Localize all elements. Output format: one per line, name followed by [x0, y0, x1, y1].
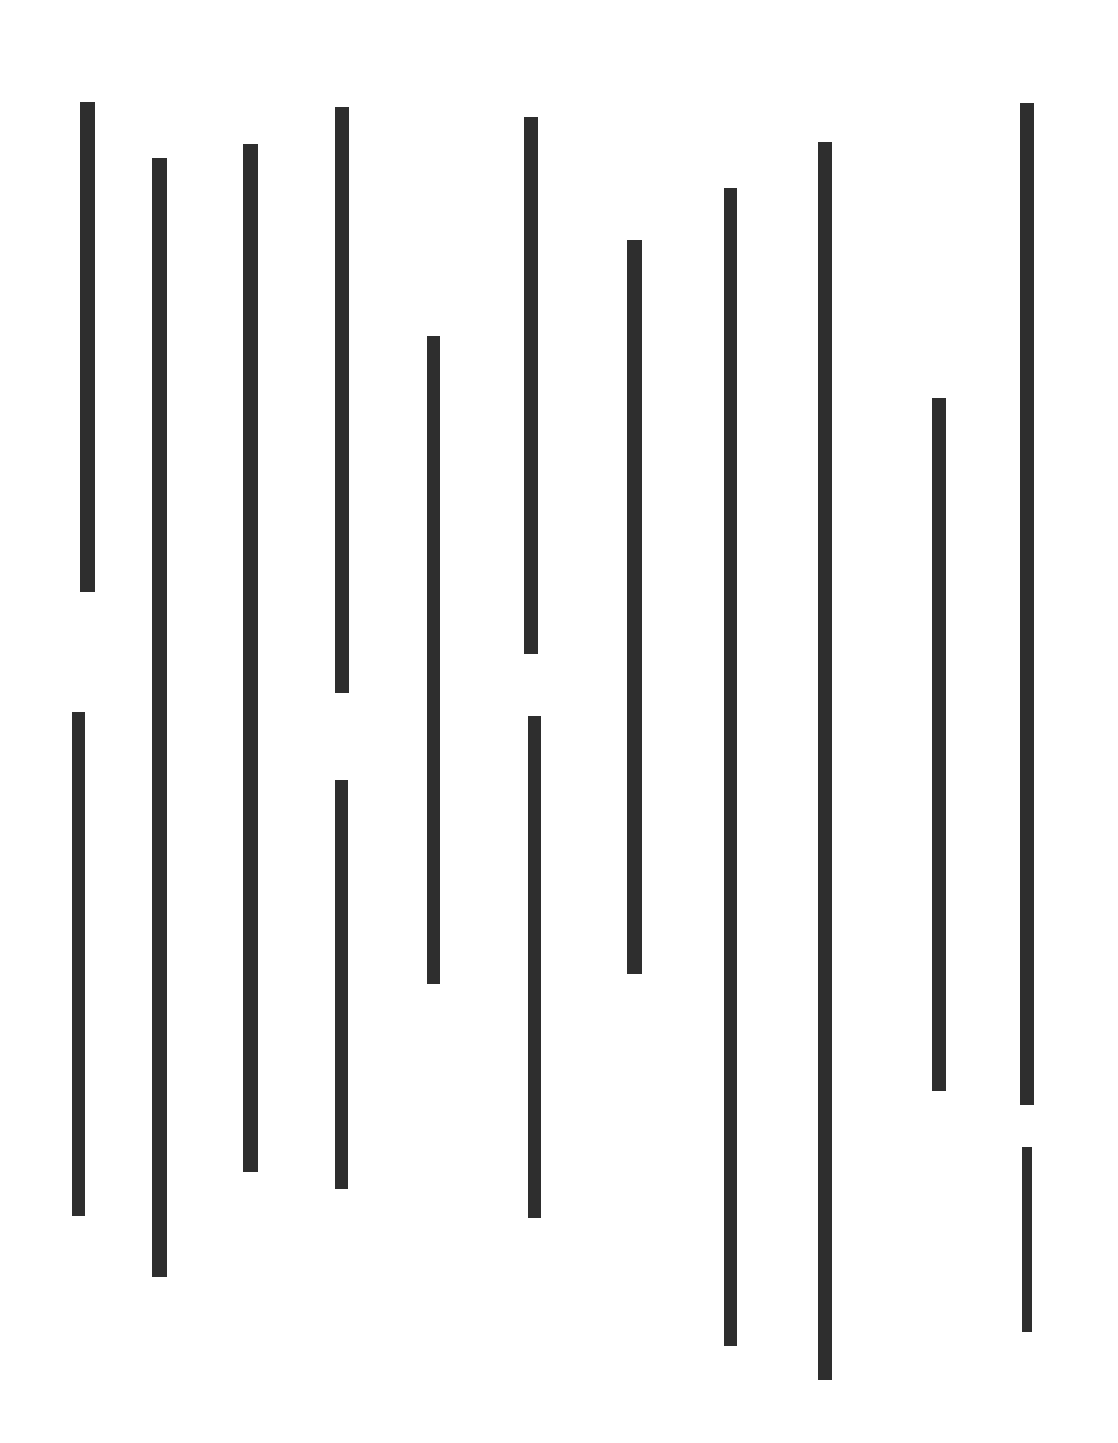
vertical-bar-col4-top — [335, 107, 349, 693]
vertical-bar-col11-top — [1020, 103, 1034, 1105]
vertical-bar-col6-top — [524, 117, 538, 654]
vertical-bar-col10 — [932, 398, 946, 1091]
vertical-bar-col7 — [627, 240, 642, 974]
vertical-bar-col8 — [724, 188, 737, 1346]
vertical-bar-col1-top — [80, 102, 95, 592]
vertical-bar-col11-bottom — [1022, 1147, 1032, 1332]
vertical-bar-col5 — [427, 336, 440, 984]
vertical-bar-col9 — [818, 142, 832, 1380]
line-pattern-canvas — [0, 0, 1118, 1443]
vertical-bar-col6-bottom — [528, 716, 541, 1218]
vertical-bar-col2 — [152, 158, 167, 1277]
vertical-bar-col4-bottom — [335, 780, 348, 1189]
vertical-bar-col3 — [243, 144, 258, 1172]
vertical-bar-col1-bottom — [72, 712, 85, 1216]
